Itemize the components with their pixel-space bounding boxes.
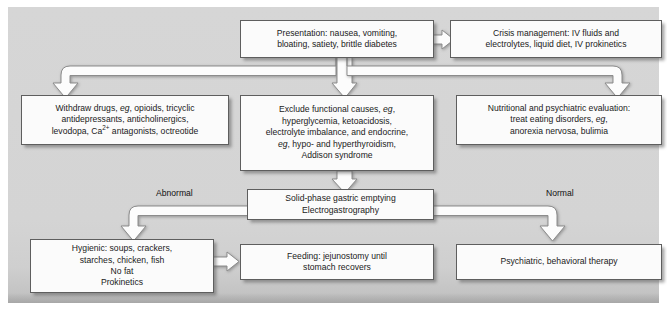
node-nutritional-psychiatric-evaluation[interactable]: Nutritional and psychiatric evaluation: … (456, 95, 662, 145)
figure-canvas: Presentation: nausea, vomiting, bloating… (0, 0, 667, 310)
node-presentation-text: Presentation: nausea, vomiting, bloating… (245, 28, 429, 51)
node-test-text: Solid-phase gastric emptying Electrogast… (252, 193, 429, 216)
node-withdraw-drugs[interactable]: Withdraw drugs, eg, opioids, tricyclic a… (21, 95, 229, 145)
node-withdraw-text: Withdraw drugs, eg, opioids, tricyclic a… (26, 103, 224, 137)
node-crisis-management[interactable]: Crisis management: IV fluids and electro… (450, 20, 662, 58)
node-feeding-jejunostomy[interactable]: Feeding: jejunostomy until stomach recov… (240, 244, 434, 280)
node-exclude-text: Exclude functional causes, eg, hyperglyc… (245, 104, 429, 161)
node-hygienic-text: Hygienic: soups, crackers, starches, chi… (35, 243, 209, 289)
node-nutritional-text: Nutritional and psychiatric evaluation: … (461, 103, 657, 137)
node-psychiatric-therapy[interactable]: Psychiatric, behavioral therapy (456, 244, 662, 280)
figure-panel: Presentation: nausea, vomiting, bloating… (8, 7, 659, 303)
node-crisis-text: Crisis management: IV fluids and electro… (455, 28, 657, 51)
node-presentation[interactable]: Presentation: nausea, vomiting, bloating… (240, 20, 434, 58)
node-gastric-emptying-test[interactable]: Solid-phase gastric emptying Electrogast… (247, 189, 434, 220)
node-feeding-text: Feeding: jejunostomy until stomach recov… (245, 251, 429, 274)
branch-label-normal: Normal (546, 188, 574, 198)
connector-hygienic-to-feeding (211, 251, 241, 277)
node-psychiatric-text: Psychiatric, behavioral therapy (461, 256, 657, 267)
node-hygienic-diet[interactable]: Hygienic: soups, crackers, starches, chi… (30, 239, 214, 293)
branch-label-abnormal: Abnormal (156, 188, 193, 198)
node-exclude-functional-causes[interactable]: Exclude functional causes, eg, hyperglyc… (240, 95, 434, 171)
